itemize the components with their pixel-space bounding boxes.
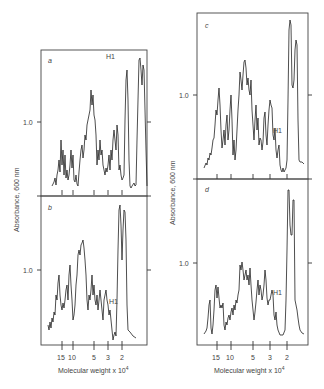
right-column: c d H1 H1 1.0 1.0 Absorbance, 600 nm 15 … — [169, 13, 312, 375]
left-column: a b H1 H1 1.0 1.0 Absorbance, 600 nm 15 … — [13, 50, 151, 375]
figure-canvas: a b H1 H1 1.0 1.0 Absorbance, 600 nm 15 … — [0, 0, 324, 389]
panel-a-h1-annotation: H1 — [106, 53, 115, 60]
right-xtick-label-3: 3 — [268, 354, 272, 361]
panel-c-trace — [204, 20, 304, 172]
panel-b-label: b — [48, 204, 52, 211]
panel-b-h1-annotation: H1 — [109, 298, 118, 305]
panel-d-h1-annotation: H1 — [273, 289, 282, 296]
panel-c-h1-annotation: H1 — [273, 127, 282, 134]
panel-c-label: c — [205, 22, 209, 29]
left-xtick-label-3: 3 — [106, 354, 110, 361]
panel-d-ytick-label: 1.0 — [179, 260, 189, 267]
left-xtick-label-5: 5 — [92, 354, 96, 361]
left-y-axis-title: Absorbance, 600 nm — [13, 167, 20, 232]
left-xtick-label-10: 10 — [68, 354, 76, 361]
panel-c-mw-markers — [217, 174, 287, 179]
panel-a-label: a — [48, 57, 52, 64]
left-xtick-label-15: 15 — [57, 354, 65, 361]
panel-b-ytick-label: 1.0 — [23, 267, 33, 274]
panel-a-ytick-label: 1.0 — [23, 119, 33, 126]
right-xtick-label-10: 10 — [226, 354, 234, 361]
panel-d-trace — [204, 190, 304, 335]
panel-b-trace — [48, 205, 136, 340]
panel-b-xticks — [62, 341, 122, 350]
panel-b-frame — [41, 196, 147, 345]
panel-c-ytick-label: 1.0 — [179, 92, 189, 99]
panel-d-label: d — [205, 186, 210, 193]
left-xtick-label-2: 2 — [120, 354, 124, 361]
right-xtick-label-5: 5 — [251, 354, 255, 361]
right-xtick-label-15: 15 — [212, 354, 220, 361]
right-x-axis-title: Molecular weight x 104 — [214, 365, 285, 375]
right-y-axis-title: Absorbance, 600 nm — [169, 160, 176, 225]
panel-d-xticks — [217, 341, 287, 350]
panel-a-trace — [52, 58, 147, 188]
right-xtick-label-2: 2 — [285, 354, 289, 361]
panel-a-mw-markers — [62, 190, 122, 195]
left-x-axis-title: Molecular weight x 104 — [58, 365, 129, 375]
